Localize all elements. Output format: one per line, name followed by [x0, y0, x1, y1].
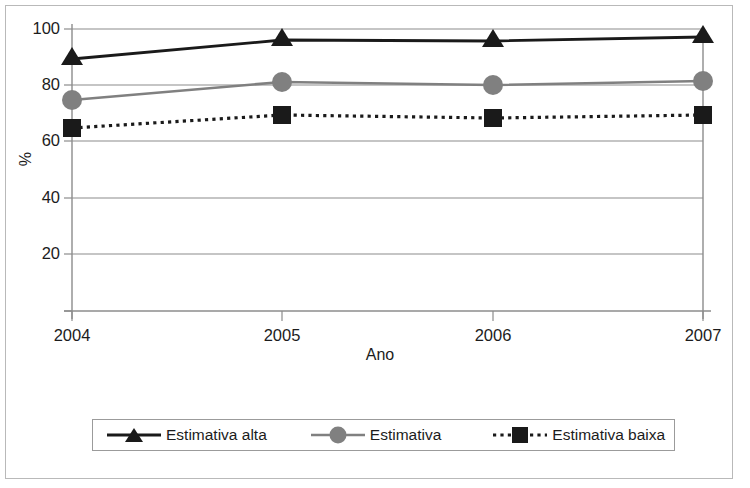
series-line-estimativa-alta [72, 37, 703, 59]
data-point-marker [694, 106, 712, 124]
series-markers-estimativa [62, 71, 713, 110]
series-markers-estimativa-baixa [63, 106, 712, 137]
data-point-marker [693, 71, 713, 91]
x-axis-title: Ano [320, 346, 440, 364]
gridlines [72, 29, 703, 254]
x-tick-label-2006: 2006 [458, 326, 528, 345]
y-axis-title: % [17, 139, 35, 179]
data-point-marker [484, 109, 502, 127]
chart-plot-area [0, 0, 750, 488]
data-point-marker [273, 106, 291, 124]
data-point-marker [271, 28, 293, 46]
data-point-marker [482, 29, 504, 47]
legend-swatch-circle-solid-line [309, 424, 367, 446]
legend-item-estimativa: Estimativa [309, 420, 442, 450]
data-point-marker [63, 119, 81, 137]
legend-swatch-square-dotted-line [491, 424, 549, 446]
x-tick-marks [72, 311, 703, 321]
y-tick-marks [64, 29, 72, 311]
data-point-marker [692, 25, 714, 43]
legend-label: Estimativa [367, 426, 442, 444]
series-line-estimativa [72, 81, 703, 100]
legend-label: Estimativa alta [163, 426, 267, 444]
x-tick-label-2004: 2004 [37, 326, 107, 345]
y-tick-label-20: 20 [14, 244, 60, 263]
x-tick-label-2005: 2005 [247, 326, 317, 345]
series-line-estimativa-baixa [72, 115, 703, 128]
y-tick-label-100: 100 [14, 19, 60, 38]
y-tick-label-80: 80 [14, 75, 60, 94]
axis-lines [64, 24, 711, 319]
legend-item-estimativa-baixa: Estimativa baixa [491, 420, 665, 450]
chart-figure: 100 80 60 40 20 % 2004 2005 2006 2007 An… [0, 0, 750, 488]
data-point-marker [61, 47, 83, 65]
data-point-marker [62, 90, 82, 110]
series-markers-estimativa-alta [61, 25, 714, 65]
legend-label: Estimativa baixa [549, 426, 665, 444]
data-point-marker [483, 75, 503, 95]
legend-item-estimativa-alta: Estimativa alta [105, 420, 267, 450]
legend-swatch-triangle-solid-line [105, 424, 163, 446]
chart-legend: Estimativa alta Estimativa Estimativa ba… [92, 419, 675, 451]
data-point-marker [272, 72, 292, 92]
y-tick-label-40: 40 [14, 188, 60, 207]
x-tick-label-2007: 2007 [668, 326, 738, 345]
